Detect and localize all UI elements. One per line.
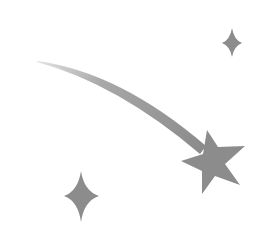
sparkle-small-icon [222, 28, 242, 57]
shooting-star-trail [37, 61, 206, 154]
sparkle-large-icon [64, 171, 99, 222]
shooting-star-illustration: Shooting star illustration with two spar… [0, 0, 277, 234]
